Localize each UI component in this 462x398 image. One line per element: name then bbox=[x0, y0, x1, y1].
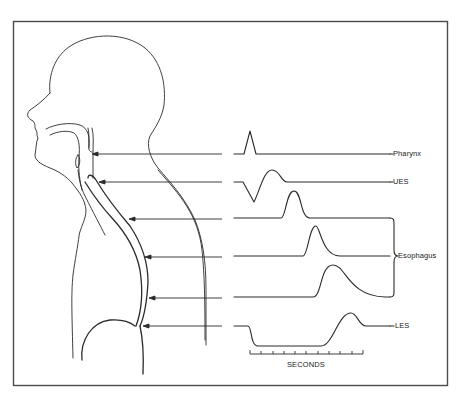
trace-les bbox=[234, 313, 390, 346]
time-scale bbox=[250, 350, 363, 354]
figure-frame bbox=[14, 22, 448, 386]
esophagus-wall-inner bbox=[85, 182, 142, 326]
label-pharynx: Pharynx bbox=[393, 149, 421, 158]
label-esophagus: Esophagus bbox=[398, 251, 436, 260]
esophagus-wall-outer bbox=[88, 175, 148, 326]
trace-pharynx bbox=[234, 131, 390, 154]
trace-ues bbox=[234, 170, 390, 202]
label-ues: UES bbox=[393, 177, 409, 186]
swallow-manometry-diagram bbox=[0, 0, 462, 398]
label-seconds: SECONDS bbox=[287, 360, 325, 369]
stomach-outline bbox=[82, 320, 143, 374]
back-outline bbox=[158, 170, 205, 340]
trace-esophagus-2 bbox=[234, 226, 390, 256]
oral-cavity bbox=[46, 124, 92, 152]
head-outline bbox=[50, 36, 206, 345]
label-les: LES bbox=[395, 321, 409, 330]
esophagus-brace bbox=[390, 218, 398, 297]
pointer-arrows bbox=[92, 152, 222, 328]
trace-esophagus-3 bbox=[234, 265, 390, 297]
